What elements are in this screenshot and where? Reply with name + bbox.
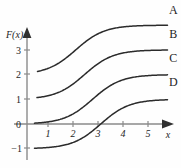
sigmoid-curves-chart: 3 2 1 0 −1 1 2 3 4 5 F(x) x A B C (0, 0, 181, 168)
curve-label-a: A (169, 3, 178, 17)
y-tick-labels-group: 3 2 1 0 −1 (11, 45, 22, 154)
y-tick-label-0: 0 (16, 119, 21, 130)
y-axis-arrowhead (23, 27, 32, 38)
x-tick-label-4: 4 (121, 128, 126, 139)
x-tick-labels-group: 1 2 3 4 5 (46, 128, 151, 139)
x-tick-label-2: 2 (71, 128, 76, 139)
y-tick-label-2: 2 (16, 69, 21, 80)
x-axis-arrowhead (162, 119, 174, 128)
curve-a (38, 25, 168, 71)
x-tick-label-5: 5 (146, 128, 151, 139)
axes-group (14, 27, 174, 160)
y-tick-label-3: 3 (16, 45, 21, 56)
curve-label-c: C (169, 51, 177, 65)
y-tick-label-neg1: −1 (11, 143, 22, 154)
x-axis-label: x (165, 129, 171, 140)
curve-label-d: D (169, 75, 178, 89)
curve-c (35, 75, 168, 123)
x-tick-label-3: 3 (95, 128, 101, 139)
curve-labels-group: A B C D (169, 3, 178, 89)
y-axis-label: F(x) (5, 29, 24, 41)
tick-marks-group (24, 50, 148, 148)
curve-label-b: B (169, 27, 177, 41)
y-tick-label-1: 1 (16, 94, 21, 105)
x-tick-label-1: 1 (46, 128, 51, 139)
figure-container: 3 2 1 0 −1 1 2 3 4 5 F(x) x A B C (0, 0, 181, 168)
